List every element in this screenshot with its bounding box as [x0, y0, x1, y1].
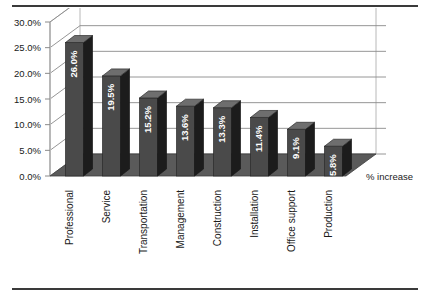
bar-side-face-4	[232, 101, 241, 176]
y-tick-label-1: 5.0%	[19, 145, 41, 156]
chart-page: 26.0%19.5%15.2%13.6%13.3%11.4%9.1%5.8% P…	[0, 0, 430, 301]
category-label-2: Transportation	[138, 190, 149, 254]
bar-data-label-0: 26.0%	[69, 50, 80, 77]
y-tick-label-6: 30.0%	[14, 17, 41, 28]
bar-data-label-6: 9.1%	[291, 137, 302, 159]
gridline-depth-6	[50, 8, 80, 22]
back-wall-group	[50, 8, 376, 154]
category-labels-group: ProfessionalServiceTransportationManagem…	[64, 190, 334, 255]
bar-side-face-2	[158, 91, 167, 176]
bar-side-face-3	[195, 99, 204, 176]
wall-depth-edge-top	[50, 8, 80, 22]
bar-side-face-5	[269, 110, 278, 176]
bottom-divider-rule	[12, 288, 418, 290]
bar-data-label-3: 13.6%	[180, 114, 191, 141]
y-tick-label-0: 0.0%	[19, 171, 41, 182]
category-label-1: Service	[101, 190, 112, 224]
bar-side-face-0	[84, 36, 93, 176]
y-axis-group	[45, 22, 50, 176]
y-tick-labels-group: 0.0%5.0%10.0%15.0%20.0%25.0%30.0%	[14, 17, 41, 182]
bar-data-label-4: 13.3%	[217, 115, 228, 142]
y-tick-label-3: 15.0%	[14, 94, 41, 105]
bar-side-face-1	[121, 69, 130, 176]
bar-chart-3d: 26.0%19.5%15.2%13.6%13.3%11.4%9.1%5.8% P…	[0, 8, 430, 284]
top-divider-rule	[12, 5, 418, 7]
chart-svg: 26.0%19.5%15.2%13.6%13.3%11.4%9.1%5.8% P…	[0, 8, 430, 284]
bar-data-label-7: 5.8%	[328, 154, 339, 176]
bar-side-face-6	[306, 122, 315, 176]
category-label-5: Installation	[249, 190, 260, 238]
y-tick-label-4: 20.0%	[14, 68, 41, 79]
bar-data-label-5: 11.4%	[254, 125, 265, 152]
bar-data-label-1: 19.5%	[106, 83, 117, 110]
bar-data-label-2: 15.2%	[143, 105, 154, 132]
category-label-6: Office support	[286, 190, 297, 252]
y-tick-label-5: 25.0%	[14, 42, 41, 53]
series-label-group: % increase	[366, 171, 413, 182]
category-label-4: Construction	[212, 190, 223, 246]
series-label: % increase	[366, 171, 413, 182]
category-label-0: Professional	[64, 190, 75, 245]
y-tick-label-2: 10.0%	[14, 119, 41, 130]
category-label-7: Production	[323, 190, 334, 238]
category-label-3: Management	[175, 190, 186, 249]
